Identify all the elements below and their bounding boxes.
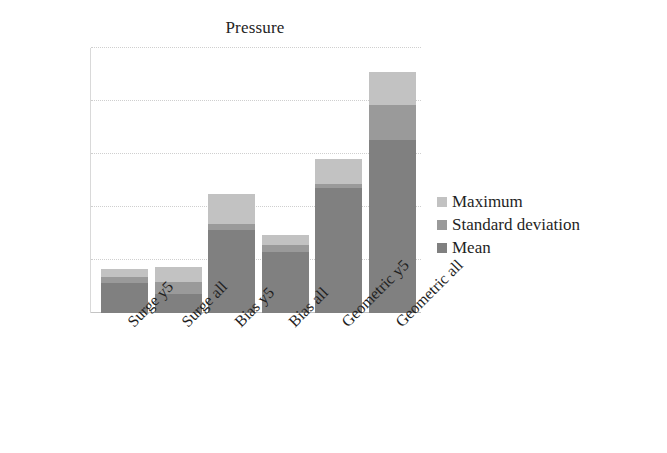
legend-label: Maximum [452,192,523,211]
bar-segment-maximum[interactable] [262,235,309,246]
bar-segment-maximum[interactable] [101,269,148,277]
bar-segment-standard-deviation[interactable] [208,224,255,230]
chart-title: Pressure [90,18,420,38]
legend-item[interactable]: Standard deviation [437,215,580,234]
pressure-stacked-bar-chart: Pressure 275028002850290029503000 Surge … [0,0,667,453]
legend-swatch-icon [437,197,447,207]
legend-swatch-icon [437,243,447,253]
bar-segment-standard-deviation[interactable] [315,184,362,188]
legend-item[interactable]: Mean [437,238,580,257]
plot-area: 275028002850290029503000 [90,48,421,313]
bar-segment-maximum[interactable] [208,194,255,224]
bar-segment-maximum[interactable] [315,159,362,183]
bar-segment-standard-deviation[interactable] [262,245,309,251]
bar-segment-maximum[interactable] [369,72,416,105]
chart-legend: MaximumStandard deviationMean [437,192,580,261]
bar-segment-standard-deviation[interactable] [101,277,148,283]
legend-label: Standard deviation [452,215,580,234]
gridline [91,47,421,48]
legend-label: Mean [452,238,491,257]
bar-segment-standard-deviation[interactable] [369,105,416,140]
legend-swatch-icon [437,220,447,230]
legend-item[interactable]: Maximum [437,192,580,211]
